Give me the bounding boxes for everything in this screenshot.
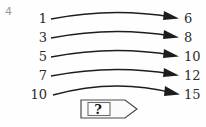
mapping-arrow xyxy=(51,68,179,77)
answer-placeholder-banner[interactable]: ? xyxy=(80,99,138,119)
mapping-arrow xyxy=(53,86,180,96)
diagram-canvas: 4 1 3 5 7 10 6 8 10 12 15 xyxy=(0,0,206,127)
question-mark-glyph: ? xyxy=(80,99,116,119)
mapping-arrow xyxy=(51,11,179,20)
mapping-arrow xyxy=(51,49,179,58)
mapping-arrow xyxy=(51,30,179,39)
